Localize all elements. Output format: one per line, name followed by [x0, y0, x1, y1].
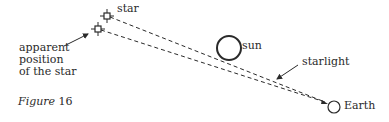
- apparent-position-label-line3: of the star: [19, 66, 77, 78]
- arrowhead-at-earth-icon: [321, 100, 328, 104]
- starlight-label: starlight: [302, 56, 349, 68]
- star-label: star: [117, 3, 139, 15]
- light-path-apparent: [101, 30, 325, 102]
- earth-label: Earth: [344, 100, 375, 112]
- earth-icon: [328, 101, 340, 113]
- starlight-arrow-icon: [277, 65, 298, 79]
- figure-caption-number: 16: [59, 95, 73, 108]
- apparent-star-icon: [91, 22, 105, 36]
- figure-caption-prefix: Figure: [18, 95, 55, 108]
- light-path-real: [110, 17, 325, 102]
- starlight-bending-diagram: star apparent position of the star sun s…: [0, 0, 389, 122]
- sun-icon: [217, 36, 241, 60]
- star-icon: [100, 9, 114, 23]
- figure-caption: Figure 16: [18, 96, 73, 108]
- sun-label: sun: [242, 40, 262, 52]
